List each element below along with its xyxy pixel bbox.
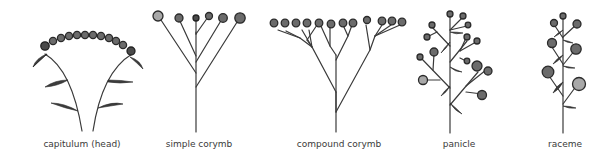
label-raceme: raceme: [548, 139, 582, 149]
label-capitulum: capitulum (head): [43, 139, 120, 149]
label-compound-corymb: compound corymb: [297, 139, 381, 149]
capitulum-florets: [41, 31, 135, 55]
compound-corymb-illustration: [270, 17, 406, 133]
simple-corymb-illustration: [153, 11, 245, 132]
label-simple-corymb: simple corymb: [166, 139, 233, 149]
label-panicle: panicle: [443, 139, 475, 149]
inflorescence-diagram: capitulum (head) simple corymb compound …: [0, 0, 616, 163]
raceme-illustration: [542, 13, 585, 133]
capitulum-illustration: [33, 31, 143, 131]
panicle-illustration: [417, 11, 492, 133]
